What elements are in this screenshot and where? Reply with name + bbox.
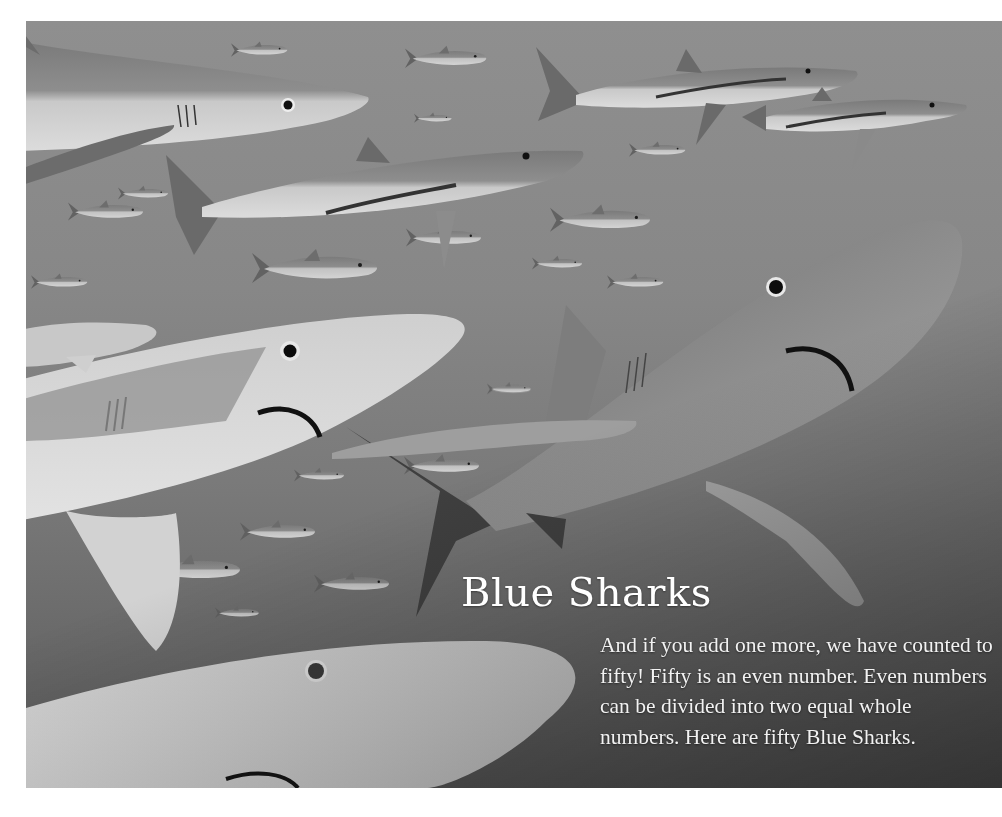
illustration-panel: Blue Sharks And if you add one more, we … — [26, 21, 1002, 788]
shark-top-left — [26, 31, 369, 187]
page-title: Blue Sharks — [461, 569, 712, 615]
shark-middle — [166, 137, 583, 269]
shark-upper-right — [536, 47, 967, 169]
page-body-text: And if you add one more, we have counted… — [600, 630, 995, 752]
shark-big-left — [26, 314, 465, 651]
shark-bottom — [26, 641, 575, 788]
